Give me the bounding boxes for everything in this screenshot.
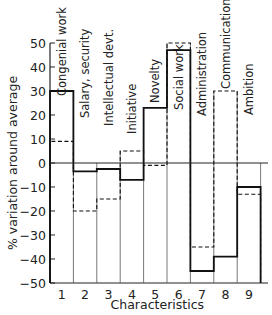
- x-tick-label: 9: [245, 287, 253, 302]
- category-name-labels: Congenial workSalary, securityIntellectu…: [55, 0, 256, 134]
- category-name-label: Initiative: [125, 84, 139, 134]
- category-name-label: Intellectual devt.: [102, 29, 116, 126]
- y-tick-label: 0: [38, 156, 46, 171]
- category-name-label: Congenial work: [55, 7, 69, 96]
- category-name-label: Ambition: [242, 63, 256, 115]
- category-name-label: Social work: [172, 44, 186, 110]
- y-tick-label: −50: [20, 276, 46, 291]
- y-tick-label: −30: [20, 228, 46, 243]
- y-tick-label: 10: [30, 132, 46, 147]
- chart: −50−40−30−20−1001020304050 123456789 Con…: [0, 0, 272, 315]
- y-tick-label: −20: [20, 204, 46, 219]
- y-axis-title: % variation around average: [5, 76, 20, 251]
- x-tick-label: 8: [222, 287, 230, 302]
- x-tick-label: 1: [58, 287, 66, 302]
- category-name-label: Communications: [219, 0, 233, 89]
- y-tick-label: 30: [30, 84, 46, 99]
- category-name-label: Administration: [195, 32, 209, 116]
- y-tick-label: −40: [20, 252, 46, 267]
- category-name-label: Novelty: [148, 59, 162, 103]
- x-tick-label: 2: [81, 287, 89, 302]
- y-tick-labels: −50−40−30−20−1001020304050: [20, 36, 46, 291]
- y-tick-label: 40: [30, 60, 46, 75]
- y-tick-label: 20: [30, 108, 46, 123]
- y-tick-label: 50: [30, 36, 46, 51]
- x-axis-title: Characteristics: [111, 297, 204, 312]
- category-name-label: Salary, security: [78, 28, 92, 118]
- y-tick-label: −10: [20, 180, 46, 195]
